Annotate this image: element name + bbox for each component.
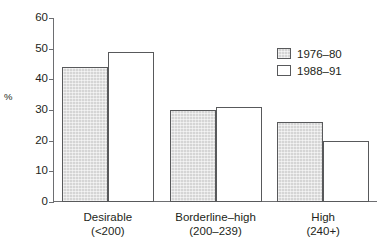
- legend-swatch-icon: [277, 48, 291, 59]
- bar-chart: % 6050403020100 Desirable(<200)Borderlin…: [0, 0, 384, 247]
- bar: [323, 141, 369, 202]
- category-label-primary: High: [311, 211, 335, 223]
- bar-group: [62, 18, 154, 202]
- bar: [170, 110, 216, 202]
- y-tick-label: 50: [22, 43, 48, 55]
- bar: [277, 122, 323, 202]
- y-tick-label: 60: [22, 12, 48, 24]
- x-category-label: High(240+): [233, 210, 384, 238]
- bar-group: [170, 18, 262, 202]
- bar: [62, 67, 108, 202]
- legend-label: 1976–80: [297, 48, 342, 60]
- category-label-secondary: (240+): [233, 224, 384, 238]
- y-tick-label: 40: [22, 73, 48, 85]
- legend-label: 1988–91: [297, 65, 342, 77]
- y-tick-label: 20: [22, 135, 48, 147]
- y-tick-label: 10: [22, 165, 48, 177]
- legend-item: 1976–80: [277, 45, 342, 62]
- legend: 1976–80 1988–91: [277, 45, 342, 79]
- legend-swatch-icon: [277, 65, 291, 76]
- bar: [216, 107, 262, 202]
- legend-item: 1988–91: [277, 62, 342, 79]
- y-tick-label: 30: [22, 104, 48, 116]
- y-tick-label: 0: [22, 196, 48, 208]
- bar: [108, 52, 154, 202]
- y-axis-title: %: [4, 91, 13, 102]
